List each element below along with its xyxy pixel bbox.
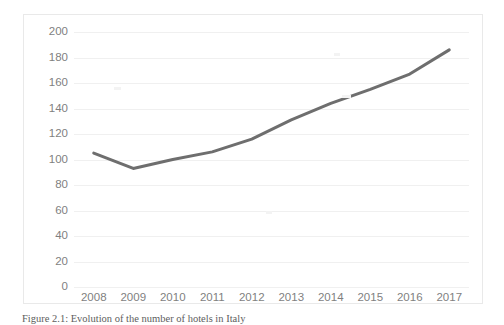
plot-area xyxy=(74,32,469,287)
series-polyline xyxy=(94,50,450,169)
y-axis-tick-label: 200 xyxy=(24,26,68,38)
x-axis-tick-label: 2008 xyxy=(72,291,116,305)
y-axis-labels: 020406080100120140160180200 xyxy=(24,32,68,287)
x-axis-tick-label: 2012 xyxy=(230,291,274,305)
x-axis-tick-label: 2017 xyxy=(427,291,471,305)
x-axis-tick-label: 2013 xyxy=(269,291,313,305)
y-axis-tick-label: 100 xyxy=(24,154,68,166)
figure-caption: Figure 2.1: Evolution of the number of h… xyxy=(22,312,482,325)
y-axis-tick-label: 140 xyxy=(24,103,68,115)
chart-frame: 020406080100120140160180200 200820092010… xyxy=(23,14,483,304)
x-axis-tick-label: 2010 xyxy=(151,291,195,305)
x-axis-tick-label: 2011 xyxy=(190,291,234,305)
x-axis-tick-label: 2015 xyxy=(348,291,392,305)
x-axis-tick-label: 2014 xyxy=(309,291,353,305)
y-axis-tick-label: 0 xyxy=(24,281,68,293)
y-axis-tick-label: 20 xyxy=(24,256,68,268)
x-axis-tick-label: 2016 xyxy=(388,291,432,305)
x-axis-labels: 2008200920102011201220132014201520162017 xyxy=(74,291,469,311)
y-axis-tick-label: 40 xyxy=(24,230,68,242)
x-axis-tick-label: 2009 xyxy=(111,291,155,305)
y-axis-tick-label: 120 xyxy=(24,128,68,140)
line-series-hotels xyxy=(74,32,469,287)
y-axis-tick-label: 180 xyxy=(24,52,68,64)
gridline xyxy=(74,287,469,288)
y-axis-tick-label: 80 xyxy=(24,179,68,191)
y-axis-tick-label: 160 xyxy=(24,77,68,89)
y-axis-tick-label: 60 xyxy=(24,205,68,217)
